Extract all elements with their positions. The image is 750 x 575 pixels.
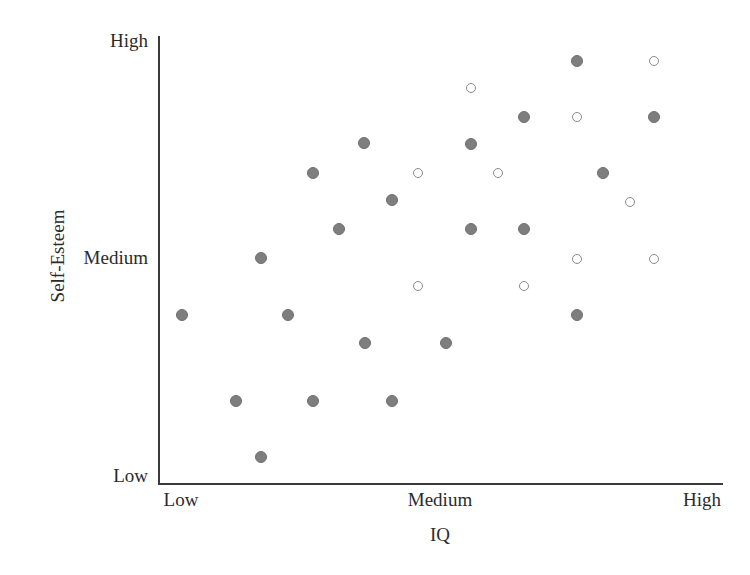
data-point-filled xyxy=(386,194,398,206)
y-tick-medium-label: Medium xyxy=(0,247,148,269)
data-point-filled xyxy=(440,337,452,349)
x-axis-title: IQ xyxy=(390,524,490,546)
data-point-open xyxy=(649,56,659,66)
data-point-filled xyxy=(571,309,583,321)
plot-area xyxy=(0,0,750,575)
y-tick-low: Low xyxy=(0,465,148,487)
data-point-open xyxy=(493,168,503,178)
data-point-filled xyxy=(307,167,319,179)
data-point-open xyxy=(413,281,423,291)
x-tick-low-label: Low xyxy=(131,489,231,513)
data-point-open xyxy=(466,83,476,93)
y-tick-medium: Medium xyxy=(0,247,148,269)
data-point-filled xyxy=(648,111,660,123)
x-axis-line xyxy=(158,483,723,485)
data-point-filled xyxy=(255,451,267,463)
data-point-filled xyxy=(571,55,583,67)
data-point-filled xyxy=(333,223,345,235)
data-point-filled xyxy=(465,223,477,235)
data-point-filled xyxy=(282,309,294,321)
data-point-filled xyxy=(176,309,188,321)
data-point-open xyxy=(413,168,423,178)
y-axis-title: Self-Esteem xyxy=(47,176,69,336)
y-tick-high-label: High xyxy=(0,30,148,52)
y-tick-low-label: Low xyxy=(0,465,148,487)
data-point-filled xyxy=(597,167,609,179)
x-tick-high-label: High xyxy=(652,489,750,513)
data-point-filled xyxy=(230,395,242,407)
y-axis-line xyxy=(158,36,160,485)
data-point-filled xyxy=(386,395,398,407)
data-point-open xyxy=(572,254,582,264)
y-tick-high: High xyxy=(0,30,148,52)
data-point-filled xyxy=(359,337,371,349)
data-point-filled xyxy=(358,137,370,149)
data-point-filled xyxy=(255,252,267,264)
data-point-open xyxy=(519,281,529,291)
data-point-filled xyxy=(307,395,319,407)
x-tick-medium-label: Medium xyxy=(390,489,490,513)
data-point-open xyxy=(572,112,582,122)
scatter-plot-figure: High Medium Low Low Medium High Self-Est… xyxy=(0,0,750,575)
data-point-filled xyxy=(518,223,530,235)
data-point-filled xyxy=(518,111,530,123)
data-point-filled xyxy=(465,138,477,150)
data-point-open xyxy=(625,197,635,207)
data-point-open xyxy=(649,254,659,264)
